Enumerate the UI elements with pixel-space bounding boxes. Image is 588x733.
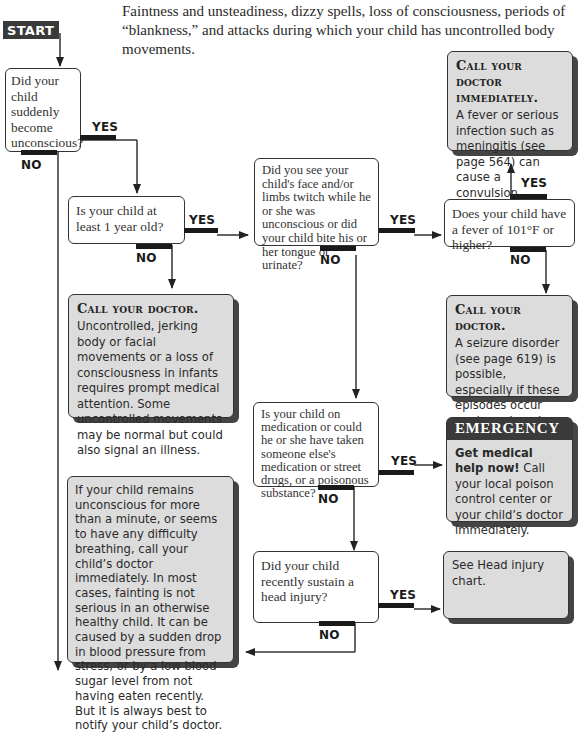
outcome-emergency: EMERGENCY Get medical help now! Call you… bbox=[446, 417, 573, 522]
question-text: Did your child recently sustain a head i… bbox=[261, 558, 354, 604]
outcome-fainting-info: If your child remains unconscious for mo… bbox=[67, 476, 234, 663]
outcome-body: Uncontrolled, jerking body or facial mov… bbox=[77, 319, 225, 459]
yes-label: YES bbox=[390, 588, 416, 602]
outcome-call-doctor-infant: Call your doctor. Uncontrolled, jerking … bbox=[68, 294, 234, 418]
outcome-call-doctor-immediately: Call your doctor immediately. A fever or… bbox=[447, 51, 573, 151]
emergency-banner: EMERGENCY bbox=[447, 418, 572, 440]
no-label: NO bbox=[21, 158, 42, 172]
question-unconscious: Did your child suddenly become unconscio… bbox=[5, 68, 81, 152]
question-fever: Does your child have a fever of 101°F or… bbox=[444, 199, 575, 247]
no-bar bbox=[510, 247, 546, 252]
yes-bar bbox=[378, 603, 414, 608]
outcome-heading: Call your doctor. bbox=[77, 301, 225, 317]
question-text: Is your child at least 1 year old? bbox=[76, 203, 163, 234]
question-medication: Is your child on medication or could he … bbox=[253, 402, 379, 487]
yes-label: YES bbox=[391, 454, 417, 468]
no-bar bbox=[318, 485, 354, 490]
yes-bar bbox=[184, 228, 218, 233]
outcome-head-injury: See Head injury chart. bbox=[443, 551, 569, 619]
no-label: NO bbox=[510, 253, 531, 267]
outcome-body: If your child remains unconscious for mo… bbox=[75, 483, 226, 733]
yes-label: YES bbox=[390, 213, 416, 227]
outcome-body: A fever or serious infection such as men… bbox=[456, 108, 564, 201]
yes-bar bbox=[80, 135, 116, 140]
no-label: NO bbox=[318, 492, 339, 506]
outcome-heading: Call your doctor immediately. bbox=[456, 58, 564, 106]
question-text: Does your child have a fever of 101°F or… bbox=[452, 206, 566, 252]
question-text: Did your child suddenly become unconscio… bbox=[11, 73, 83, 150]
outcome-body: A seizure disorder (see page 619) is pos… bbox=[455, 336, 564, 429]
outcome-heading: Call your doctor. bbox=[455, 302, 564, 334]
emergency-bold-text: Get medical help now! bbox=[455, 446, 533, 476]
question-twitch: Did you see your child's face and/or lim… bbox=[254, 158, 379, 246]
no-label: NO bbox=[136, 251, 157, 265]
no-bar bbox=[320, 246, 356, 251]
no-label: NO bbox=[319, 628, 340, 642]
yes-label: YES bbox=[189, 213, 215, 227]
no-label: NO bbox=[320, 253, 341, 267]
outcome-body: See Head injury chart. bbox=[452, 558, 560, 589]
no-bar bbox=[21, 150, 57, 155]
outcome-call-doctor-seizure: Call your doctor. A seizure disorder (se… bbox=[446, 295, 573, 397]
yes-bar bbox=[379, 228, 415, 233]
question-age: Is your child at least 1 year old? bbox=[68, 196, 185, 244]
yes-label: YES bbox=[92, 120, 118, 134]
no-bar bbox=[319, 621, 355, 626]
question-head-injury: Did your child recently sustain a head i… bbox=[253, 551, 379, 623]
yes-bar bbox=[379, 470, 414, 475]
no-bar bbox=[136, 244, 172, 249]
